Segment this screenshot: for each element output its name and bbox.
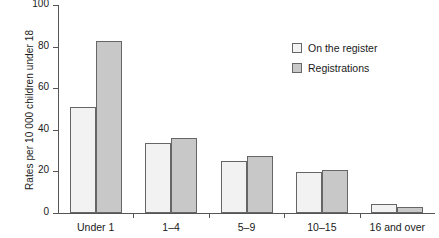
bar-chart: Rates per 10 000 children under 18 02040…: [0, 0, 439, 238]
legend-item: On the register: [292, 38, 377, 58]
chart-legend: On the registerRegistrations: [292, 38, 377, 78]
y-axis-tick: 80: [53, 47, 58, 48]
legend-label: Registrations: [308, 62, 369, 74]
y-axis-tick: 20: [53, 171, 58, 172]
x-axis-category-label: 16 and over: [360, 221, 435, 234]
y-axis-tick: 40: [53, 130, 58, 131]
bar: [371, 204, 397, 213]
y-axis-line: [58, 5, 59, 213]
legend-swatch: [292, 63, 302, 73]
legend-label: On the register: [308, 42, 377, 54]
bar: [171, 138, 197, 213]
y-axis-tick-label: 80: [38, 40, 49, 52]
bar: [70, 107, 96, 213]
x-axis-line: [58, 213, 435, 214]
y-axis-tick-label: 100: [32, 0, 49, 10]
bar: [96, 41, 122, 213]
y-axis-tick: 100: [53, 5, 58, 6]
bar: [221, 161, 247, 213]
x-axis-tick: [284, 213, 285, 218]
bar: [397, 207, 423, 213]
x-axis-tick: [360, 213, 361, 218]
y-axis-tick-label: 40: [38, 123, 49, 135]
y-axis-tick-label: 60: [38, 81, 49, 93]
x-axis-category-label: 1–4: [133, 221, 208, 234]
bar: [322, 170, 348, 213]
x-axis-tick: [133, 213, 134, 218]
bar: [247, 156, 273, 213]
bar: [145, 143, 171, 213]
x-axis-category-label: 10–15: [284, 221, 359, 234]
x-axis-category-label: Under 1: [58, 221, 133, 234]
plot-area: 020406080100Under 11–45–910–1516 and ove…: [58, 5, 435, 213]
y-axis-tick: 60: [53, 88, 58, 89]
legend-item: Registrations: [292, 58, 377, 78]
y-axis-tick: 0: [53, 213, 58, 214]
y-axis-tick-label: 0: [43, 206, 49, 218]
legend-swatch: [292, 43, 302, 53]
x-axis-category-label: 5–9: [209, 221, 284, 234]
bar: [296, 172, 322, 213]
y-axis-title: Rates per 10 000 children under 18: [24, 10, 35, 210]
y-axis-tick-label: 20: [38, 164, 49, 176]
x-axis-tick: [209, 213, 210, 218]
